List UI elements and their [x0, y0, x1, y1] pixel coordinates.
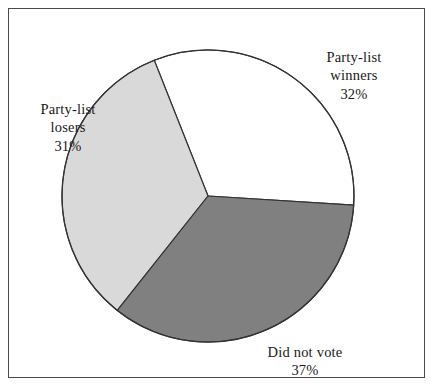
slice-label-losers-line1: Party-list: [40, 101, 95, 117]
slice-label-party-list-winners: Party-list winners 32%: [296, 48, 412, 103]
slice-label-didnotvote-line1: Did not vote: [268, 344, 343, 360]
slice-label-did-not-vote: Did not vote 37%: [230, 343, 380, 380]
slice-label-winners-line1: Party-list: [326, 49, 381, 65]
slice-label-party-list-losers: Party-list losers 31%: [10, 100, 126, 155]
pie-chart-figure: Party-list winners 32% Party-list losers…: [0, 0, 440, 388]
slice-label-losers-line2: losers: [50, 119, 85, 135]
slice-label-losers-percent: 31%: [10, 137, 126, 155]
slice-label-winners-percent: 32%: [296, 85, 412, 103]
slice-label-didnotvote-percent: 37%: [230, 361, 380, 379]
slice-label-winners-line2: winners: [330, 67, 377, 83]
